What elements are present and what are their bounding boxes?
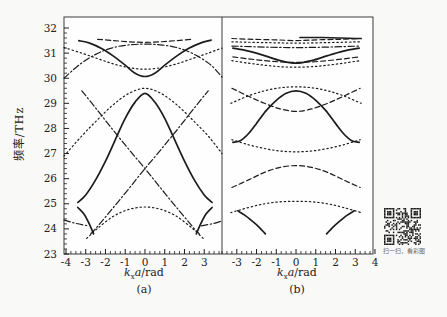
y-tick-label: 30 [44,72,57,84]
x-tick-label: -4 [61,256,72,268]
qr-caption: 扫一扫，看彩图 [376,247,432,255]
x-axis-label-symbol: k [124,266,131,279]
y-tick-label: 31 [44,47,57,59]
x-tick-label: 3 [352,256,359,268]
chart-canvas: 23242526272829303132-4-3-2-10123-3-2-101… [0,0,447,317]
qr-code-icon [384,208,421,245]
band-structure-figure: 23242526272829303132-4-3-2-10123-3-2-101… [0,0,447,317]
y-tick-label: 29 [44,97,57,109]
x-tick-label: -3 [81,256,91,268]
b-top-solid-flat-right [300,38,361,39]
x-tick-label: 3 [201,256,208,268]
x-tick-label: -3 [232,256,242,268]
y-axis-label: 频率/THz [10,92,24,176]
y-tick-label: 25 [44,197,57,209]
x-axis-label-unit: /rad [141,266,164,279]
y-tick-label: 32 [44,22,57,34]
x-tick-label: 4 [372,256,379,268]
x-axis-label-panel-a: kxa/rad [94,266,194,280]
y-tick-label: 23 [44,248,57,260]
x-axis-label-unit: /rad [294,266,317,279]
qr-code: 扫一扫，看彩图 [384,208,424,260]
panel-caption-a: (a) [94,283,194,297]
panel-caption-b: (b) [247,283,347,297]
y-tick-label: 26 [44,172,58,184]
x-axis-label-panel-b: kxa/rad [247,266,347,280]
x-axis-label-symbol: k [277,266,284,279]
y-tick-label: 24 [44,222,58,234]
y-tick-label: 27 [44,147,57,159]
y-tick-label: 28 [44,122,57,134]
